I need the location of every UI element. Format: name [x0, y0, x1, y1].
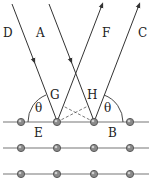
atom — [126, 170, 133, 177]
label-theta-left: θ — [35, 101, 42, 115]
reflected-ray-f — [57, 5, 102, 122]
atom — [53, 118, 60, 125]
dashed-line-1 — [57, 106, 88, 122]
label-c: C — [138, 26, 147, 40]
atom — [90, 118, 97, 125]
atom — [17, 170, 24, 177]
label-g: G — [50, 88, 60, 102]
label-f: F — [102, 26, 110, 40]
incident-ray-a-upper — [49, 4, 71, 61]
atom — [17, 118, 24, 125]
label-a: A — [35, 26, 45, 40]
atom — [126, 144, 133, 151]
label-h: H — [87, 88, 97, 102]
atom — [126, 118, 133, 125]
label-d: D — [3, 26, 13, 40]
label-b: B — [108, 126, 117, 140]
atom — [53, 170, 60, 177]
bragg-diagram: D A F C G H θ θ E B — [0, 0, 152, 187]
label-theta-right: θ — [104, 101, 111, 115]
incident-ray-d-upper — [12, 4, 34, 61]
atom — [53, 144, 60, 151]
label-e: E — [34, 126, 43, 140]
atom — [17, 144, 24, 151]
atom — [90, 144, 97, 151]
atom — [90, 170, 97, 177]
